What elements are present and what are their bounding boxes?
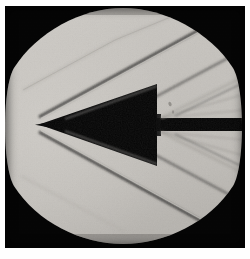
schlieren-photo-plate	[5, 6, 245, 248]
figure-frame	[0, 0, 250, 259]
schlieren-image	[5, 6, 245, 248]
film-grain-overlay	[5, 6, 245, 248]
figure-caption	[0, 250, 250, 259]
window-speck-upper-right	[190, 25, 193, 27]
